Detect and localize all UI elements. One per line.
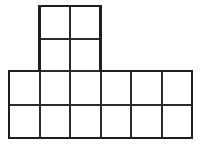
cell-bot-r4-c6 <box>162 105 193 139</box>
cell-top-r2-c1 <box>40 39 71 72</box>
cell-bot-r3-c3 <box>70 71 101 105</box>
cell-bot-r4-c1 <box>9 105 40 139</box>
cell-bot-r3-c2 <box>40 71 71 105</box>
cell-top-r2-c2 <box>70 39 101 72</box>
cell-top-r1-c2 <box>70 6 101 39</box>
cell-bot-r4-c2 <box>40 105 71 139</box>
cell-bot-r3-c5 <box>131 71 162 105</box>
figure-canvas <box>0 0 201 144</box>
cell-bot-r3-c4 <box>101 71 132 105</box>
cell-bot-r4-c4 <box>101 105 132 139</box>
cell-bot-r4-c5 <box>131 105 162 139</box>
cell-bot-r3-c6 <box>162 71 193 105</box>
cell-top-r1-c1 <box>40 6 71 39</box>
grid-figure <box>0 0 201 144</box>
cell-bot-r4-c3 <box>70 105 101 139</box>
cell-bot-r3-c1 <box>9 71 40 105</box>
